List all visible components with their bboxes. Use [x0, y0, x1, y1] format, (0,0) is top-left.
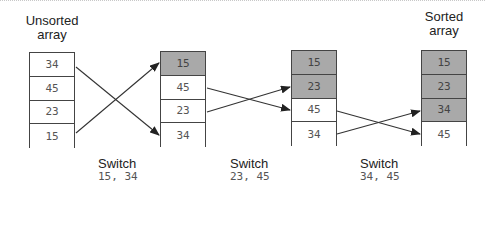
switch-label-2: Switch 23, 45 — [230, 157, 270, 183]
switch-values: 15, 34 — [98, 171, 138, 183]
switch-values: 34, 45 — [360, 171, 400, 183]
switch-title: Switch — [230, 157, 270, 171]
arrow-icon — [76, 63, 159, 133]
switch-label-3: Switch 34, 45 — [360, 157, 400, 183]
switch-label-1: Switch 15, 34 — [98, 157, 138, 183]
switch-values: 23, 45 — [230, 171, 270, 183]
switch-title: Switch — [360, 157, 400, 171]
switch-title: Switch — [98, 157, 138, 171]
arrow-icon — [76, 67, 159, 135]
